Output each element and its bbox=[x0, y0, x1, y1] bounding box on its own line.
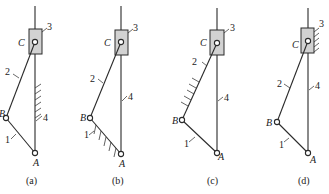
link-1 bbox=[6, 118, 35, 153]
label-a: A bbox=[217, 151, 225, 162]
joint-b bbox=[87, 115, 92, 120]
label-3: 3 bbox=[319, 18, 324, 29]
label-2: 2 bbox=[5, 66, 10, 77]
label-1: 1 bbox=[279, 139, 284, 150]
joint-c bbox=[118, 39, 123, 44]
mechanism-diagram: 3 C 2 4 B 1 A (a) 3 C 2 4 B 1 A bbox=[0, 0, 329, 194]
ground-hatch bbox=[94, 125, 116, 157]
ground-hatch bbox=[314, 28, 319, 52]
label-2: 2 bbox=[277, 78, 282, 89]
label-a: A bbox=[32, 157, 40, 168]
joint-c bbox=[305, 38, 310, 43]
link-2 bbox=[182, 43, 217, 120]
label-b: B bbox=[172, 115, 178, 126]
link-2 bbox=[6, 42, 35, 118]
label-b: B bbox=[0, 108, 5, 119]
panel-b: 3 C 2 4 B 1 A (b) bbox=[80, 6, 138, 187]
caption-d: (d) bbox=[298, 175, 310, 187]
panel-a: 3 C 2 4 B 1 A (a) bbox=[0, 6, 52, 187]
joint-a bbox=[32, 150, 37, 155]
label-2: 2 bbox=[192, 56, 197, 67]
label-1: 1 bbox=[5, 134, 10, 145]
label-c: C bbox=[104, 37, 111, 48]
caption-a: (a) bbox=[26, 175, 37, 187]
joint-c bbox=[32, 39, 37, 44]
caption-b: (b) bbox=[112, 175, 124, 187]
label-c: C bbox=[18, 37, 25, 48]
label-a: A bbox=[118, 158, 126, 169]
panel-c: 3 C 2 4 B 1 A (c) bbox=[172, 8, 235, 187]
joint-c bbox=[214, 40, 219, 45]
label-b: B bbox=[266, 117, 272, 128]
joint-b bbox=[274, 119, 279, 124]
ground-hatch bbox=[35, 84, 41, 118]
label-4: 4 bbox=[128, 91, 133, 102]
label-b: B bbox=[80, 112, 86, 123]
label-3: 3 bbox=[133, 22, 138, 33]
label-4: 4 bbox=[315, 80, 320, 91]
label-2: 2 bbox=[90, 73, 95, 84]
label-4: 4 bbox=[224, 92, 229, 103]
label-3: 3 bbox=[47, 21, 52, 32]
joint-a bbox=[118, 151, 123, 156]
joint-b bbox=[179, 117, 184, 122]
label-1: 1 bbox=[184, 138, 189, 149]
panel-d: 3 C 2 4 B 1 A (d) bbox=[266, 8, 324, 187]
label-4: 4 bbox=[43, 112, 48, 123]
label-a: A bbox=[309, 154, 317, 165]
label-c: C bbox=[292, 39, 299, 50]
label-1: 1 bbox=[84, 129, 89, 140]
label-3: 3 bbox=[230, 22, 235, 33]
link-1 bbox=[90, 118, 121, 154]
label-c: C bbox=[200, 37, 207, 48]
caption-c: (c) bbox=[207, 175, 218, 187]
